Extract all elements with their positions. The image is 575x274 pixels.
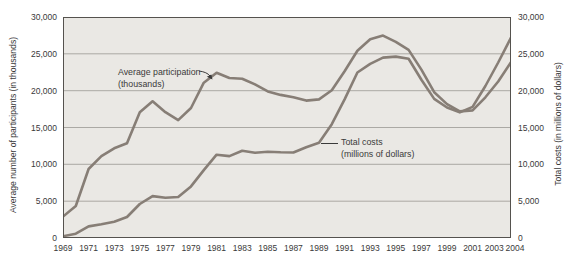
participation-annotation-line1: Average participation [118, 67, 200, 79]
y-axis-tick-right: 10,000 [518, 159, 544, 169]
y-axis-tick-left: 15,000 [5, 123, 57, 133]
x-axis-tick: 2004 [500, 243, 530, 253]
y-axis-tick-right: 25,000 [518, 49, 544, 59]
y-axis-tick-left: 30,000 [5, 12, 57, 22]
y-axis-tick-left: 5,000 [5, 196, 57, 206]
y-axis-tick-right: 20,000 [518, 86, 544, 96]
participation-annotation: Average participation (thousands) [118, 67, 200, 90]
y-axis-tick-right: 5,000 [518, 196, 539, 206]
y-axis-tick-right: 15,000 [518, 123, 544, 133]
y-axis-tick-left: 20,000 [5, 86, 57, 96]
costs-annotation-line2: (millions of dollars) [341, 149, 414, 161]
plot-area [63, 17, 511, 238]
line-chart-figure: Average number of participants (in thous… [0, 0, 575, 274]
y-axis-tick-right: 30,000 [518, 12, 544, 22]
costs-annotation: Total costs (millions of dollars) [341, 137, 414, 160]
y-axis-tick-right: 0 [518, 233, 523, 243]
right-axis-title: Total costs (in millions of dollars) [553, 62, 563, 186]
y-axis-tick-left: 25,000 [5, 49, 57, 59]
costs-annotation-line1: Total costs [341, 137, 414, 149]
participation-annotation-line2: (thousands) [118, 79, 200, 91]
y-axis-tick-left: 10,000 [5, 159, 57, 169]
y-axis-tick-left: 0 [5, 233, 57, 243]
